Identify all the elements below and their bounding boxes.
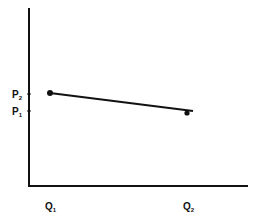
y-tick-label-p1: P1 bbox=[12, 106, 23, 118]
data-point-q2-p1 bbox=[184, 110, 189, 115]
y-tick-label-p2: P2 bbox=[12, 89, 23, 101]
data-line bbox=[50, 93, 193, 111]
x-tick-label-q1: Q1 bbox=[45, 201, 57, 213]
chart: P2 P1 Q1 Q2 bbox=[0, 0, 258, 224]
data-point-q1-p2 bbox=[47, 90, 53, 96]
x-tick-label-q2: Q2 bbox=[183, 201, 195, 213]
